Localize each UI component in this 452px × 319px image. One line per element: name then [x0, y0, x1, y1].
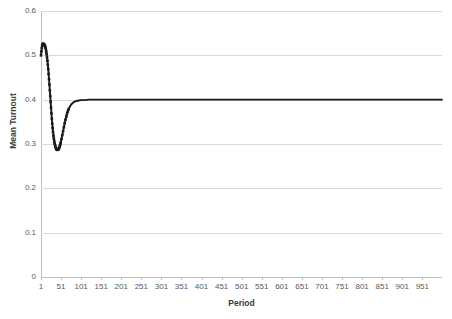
y-tick-label: 0.1 — [0, 229, 36, 237]
x-tick-label: 101 — [74, 282, 87, 291]
data-point-marker — [60, 138, 63, 141]
data-series-mean-turnout — [41, 11, 442, 277]
y-axis-title: Mean Turnout — [8, 76, 18, 166]
x-tick-label: 951 — [416, 282, 429, 291]
x-tick-label: 51 — [57, 282, 66, 291]
x-tick-label: 401 — [195, 282, 208, 291]
x-tick-label: 351 — [175, 282, 188, 291]
data-point-marker — [62, 130, 65, 133]
data-point-marker — [63, 122, 66, 125]
data-point-marker — [59, 141, 62, 144]
x-tick-label: 801 — [355, 282, 368, 291]
chart-container: 0.60.50.40.30.20.10 15110115120125130135… — [0, 0, 452, 319]
x-axis-title: Period — [41, 298, 442, 308]
data-point-marker — [45, 53, 48, 56]
data-point-marker — [47, 63, 50, 66]
x-tick-label: 851 — [376, 282, 389, 291]
x-tick-label: 501 — [235, 282, 248, 291]
y-tick-label: 0 — [0, 273, 36, 281]
data-point-marker — [53, 140, 56, 143]
data-point-marker — [65, 115, 68, 118]
data-point-marker — [63, 126, 66, 129]
gridline — [41, 277, 442, 278]
y-tick-label: 0.4 — [0, 96, 36, 104]
data-point-marker — [53, 137, 56, 140]
data-point-marker — [61, 134, 64, 137]
data-point-marker — [51, 127, 54, 130]
data-point-marker — [51, 122, 54, 125]
data-point-marker — [41, 47, 44, 50]
data-point-marker — [46, 59, 49, 62]
x-tick-label: 901 — [396, 282, 409, 291]
data-point-marker — [45, 50, 48, 53]
x-tick-label: 451 — [215, 282, 228, 291]
y-tick-label: 0.5 — [0, 51, 36, 59]
data-point-marker — [67, 108, 70, 111]
x-tick-label: 601 — [275, 282, 288, 291]
x-tick-label: 301 — [155, 282, 168, 291]
data-point-marker — [50, 112, 53, 115]
data-point-marker — [50, 106, 53, 109]
data-point-marker — [49, 95, 52, 98]
data-point-marker — [52, 134, 55, 137]
x-tick-label: 151 — [95, 282, 108, 291]
data-point-marker — [49, 89, 52, 92]
x-tick-label: 701 — [315, 282, 328, 291]
y-tick-label: 0.6 — [0, 7, 36, 15]
x-tick-label: 751 — [335, 282, 348, 291]
data-point-marker — [51, 117, 54, 120]
x-tick-label: 251 — [135, 282, 148, 291]
data-point-marker — [47, 68, 50, 71]
data-point-marker — [49, 101, 52, 104]
data-point-marker — [52, 131, 55, 134]
data-point-marker — [46, 56, 49, 59]
data-point-marker — [40, 54, 43, 57]
x-tick-label: 1 — [39, 282, 43, 291]
x-tick-label: 551 — [255, 282, 268, 291]
data-point-marker — [64, 118, 67, 121]
data-point-marker — [48, 78, 51, 81]
x-tick-label: 651 — [295, 282, 308, 291]
data-point-marker — [66, 112, 69, 115]
plot-area — [41, 11, 442, 277]
data-point-marker — [40, 50, 43, 53]
y-tick-label: 0.3 — [0, 140, 36, 148]
y-tick-label: 0.2 — [0, 184, 36, 192]
x-tick-label: 201 — [115, 282, 128, 291]
data-point-marker — [47, 73, 50, 76]
data-point-marker — [48, 83, 51, 86]
